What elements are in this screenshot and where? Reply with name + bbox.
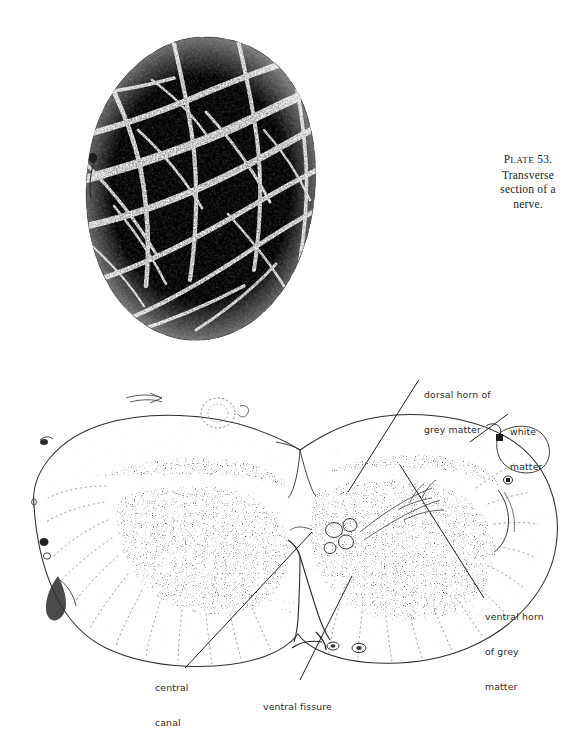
plate-number-line: PLATE53. [478,152,578,168]
plate-number: 53. [537,153,552,165]
label-line: matter [510,461,543,473]
plate-prefix-rest: LATE [510,155,534,165]
label-line: ventral fissure [263,701,332,713]
label-ventral-horn-of-grey-matter: ventral horn of grey matter [485,588,544,716]
label-central-canal: central canal [155,659,189,730]
label-dorsal-horn-of-grey-matter: dorsal horn of grey matter [424,366,491,459]
label-line: canal [155,717,189,729]
dorsal-vessel-marks [126,393,162,403]
label-line: dorsal horn of [424,389,491,401]
label-line: grey matter [424,424,491,436]
label-line: of grey [485,646,544,658]
caption-line-4: nerve. [478,197,578,212]
label-line: white [510,426,543,438]
plate-caption: PLATE53. Transverse section of a nerve. [478,152,578,211]
epineurial-vessel [89,153,97,163]
caption-line-3: section of a [478,182,578,197]
label-line: matter [485,681,544,693]
label-line: ventral horn [485,611,544,623]
nerve-fascicle-texture [78,34,324,344]
label-line: central [155,682,189,694]
label-white-matter: white matter [510,403,543,496]
transverse-section-of-nerve-micrograph [78,34,324,344]
label-ventral-fissure: ventral fissure [263,678,332,730]
caption-line-2: Transverse [478,168,578,183]
